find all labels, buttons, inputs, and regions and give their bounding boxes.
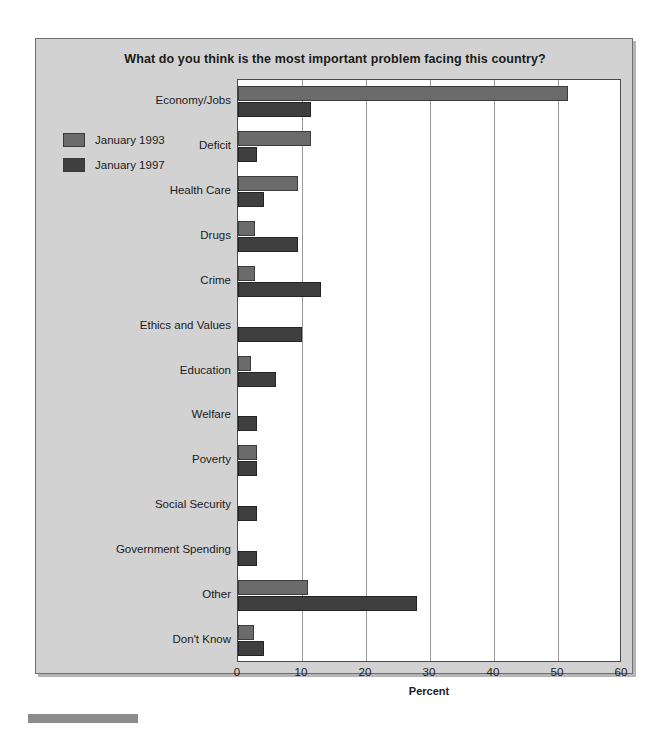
bar-group — [238, 176, 620, 208]
bar[interactable] — [238, 356, 251, 371]
bar[interactable] — [238, 86, 568, 101]
bar[interactable] — [238, 102, 311, 117]
y-axis-category-labels: Economy/JobsDeficitHealth CareDrugsCrime… — [46, 79, 231, 662]
category-label: Welfare — [46, 408, 231, 420]
category-label: Health Care — [46, 184, 231, 196]
category-label: Education — [46, 364, 231, 376]
bar-group — [238, 311, 620, 343]
category-label: Drugs — [46, 229, 231, 241]
chart-plot-area — [237, 79, 621, 662]
x-tick-label-50: 50 — [551, 666, 564, 678]
bar[interactable] — [238, 282, 321, 297]
bar-group — [238, 535, 620, 567]
chart-bars-layer — [238, 80, 620, 661]
footer-decoration-bar — [28, 714, 138, 723]
bar[interactable] — [238, 266, 255, 281]
x-tick-label-60: 60 — [615, 666, 628, 678]
bar[interactable] — [238, 461, 257, 476]
bar-group — [238, 445, 620, 477]
bar[interactable] — [238, 506, 257, 521]
chart-title: What do you think is the most important … — [36, 52, 634, 66]
bar[interactable] — [238, 147, 257, 162]
category-label: Poverty — [46, 453, 231, 465]
bar-group — [238, 266, 620, 298]
bar[interactable] — [238, 131, 311, 146]
bar[interactable] — [238, 580, 308, 595]
bar-group — [238, 580, 620, 612]
category-label: Ethics and Values — [46, 319, 231, 331]
bar[interactable] — [238, 551, 257, 566]
x-tick-label-10: 10 — [295, 666, 308, 678]
bar[interactable] — [238, 625, 254, 640]
category-label: Other — [46, 588, 231, 600]
x-axis-tick-labels: 0102030405060 — [237, 666, 621, 682]
bar[interactable] — [238, 596, 417, 611]
category-label: Deficit — [46, 139, 231, 151]
x-tick-label-30: 30 — [423, 666, 436, 678]
x-tick-label-20: 20 — [359, 666, 372, 678]
category-label: Government Spending — [46, 543, 231, 555]
bar[interactable] — [238, 372, 276, 387]
bar[interactable] — [238, 327, 302, 342]
x-axis-title: Percent — [237, 685, 621, 697]
bar-group — [238, 221, 620, 253]
bar-group — [238, 356, 620, 388]
bar-group — [238, 131, 620, 163]
category-label: Economy/Jobs — [46, 94, 231, 106]
category-label: Crime — [46, 274, 231, 286]
bar[interactable] — [238, 416, 257, 431]
bar[interactable] — [238, 176, 298, 191]
x-tick-label-40: 40 — [487, 666, 500, 678]
bar-group — [238, 400, 620, 432]
category-label: Social Security — [46, 498, 231, 510]
bar[interactable] — [238, 641, 264, 656]
bar-group — [238, 86, 620, 118]
bar[interactable] — [238, 192, 264, 207]
x-tick-label-0: 0 — [234, 666, 240, 678]
bar-group — [238, 490, 620, 522]
bar[interactable] — [238, 237, 298, 252]
chart-figure-panel: What do you think is the most important … — [35, 38, 633, 674]
bar[interactable] — [238, 445, 257, 460]
bar-group — [238, 625, 620, 657]
bar[interactable] — [238, 221, 255, 236]
category-label: Don't Know — [46, 633, 231, 645]
